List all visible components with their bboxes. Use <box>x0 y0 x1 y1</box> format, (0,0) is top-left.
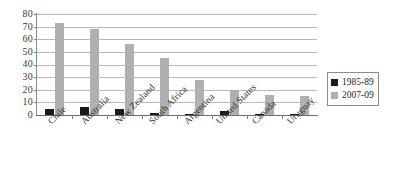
x-axis-category-labels: ChileAustraliaNew ZealandSouth AfricaArg… <box>0 115 397 176</box>
y-axis-tick-label: 20 <box>3 85 33 95</box>
y-axis-labels: 80 70 60 50 40 30 20 10 0 <box>0 14 33 115</box>
y-axis-tick-label: 40 <box>3 59 33 69</box>
chart-legend: 1985-89 2007-09 <box>327 72 379 106</box>
bar-chile-2007-09 <box>55 23 64 115</box>
legend-item-2007-09: 2007-09 <box>331 89 374 102</box>
y-axis-tick-label: 60 <box>3 34 33 44</box>
legend-swatch-gray-icon <box>331 92 338 99</box>
legend-swatch-black-icon <box>331 79 338 86</box>
y-axis-tick-label: 10 <box>3 97 33 107</box>
legend-label: 2007-09 <box>342 90 374 101</box>
y-axis-tick-label: 70 <box>3 22 33 32</box>
legend-item-1985-89: 1985-89 <box>331 76 374 89</box>
y-axis-tick-label: 80 <box>3 9 33 19</box>
legend-label: 1985-89 <box>342 77 374 88</box>
bar-chart: 80 70 60 50 40 30 20 10 0 ChileAustralia… <box>0 0 397 176</box>
y-axis-tick-label: 50 <box>3 47 33 57</box>
y-axis-tick-label: 30 <box>3 72 33 82</box>
